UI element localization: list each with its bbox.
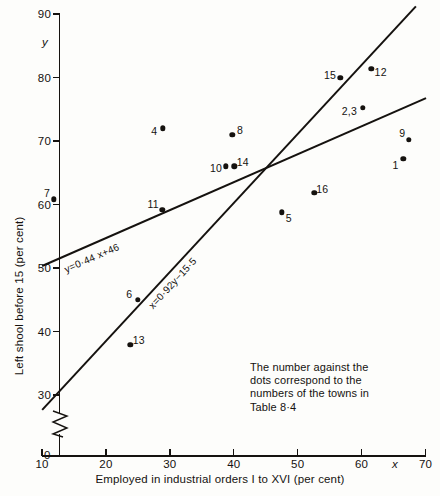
data-point-label: 11: [148, 198, 159, 210]
y-tick-mark: [53, 13, 60, 14]
data-point: [230, 132, 235, 137]
regression-x-on-y-line: [41, 5, 416, 410]
data-point-label: 6: [126, 288, 132, 300]
data-point: [51, 197, 56, 202]
data-point-label: 9: [399, 127, 405, 139]
y-tick-mark: [53, 204, 60, 205]
y-tick-label: 90: [38, 8, 51, 20]
regression-y-on-x-equation-label: y=0·44 x+46: [61, 240, 123, 275]
y-tick-label: 70: [38, 135, 51, 147]
y-tick-label: 40: [38, 326, 51, 338]
x-tick-mark: [361, 449, 362, 456]
data-point-label: 13: [133, 334, 145, 346]
y-tick-label: 80: [38, 72, 51, 84]
x-tick-label: 20: [99, 458, 112, 470]
y-tick-mark: [53, 331, 60, 332]
y-axis-zero-label: 0: [44, 449, 50, 461]
y-tick-mark: [53, 140, 60, 141]
data-point-label: 10: [210, 162, 222, 174]
chart-canvas: 30405060708090 10203040506070 0 y=0·44 x…: [0, 0, 440, 496]
y-axis-symbol: y: [42, 36, 48, 48]
data-point-label: 14: [237, 156, 249, 168]
x-tick-label: 60: [355, 458, 368, 470]
x-tick-label: 40: [227, 458, 240, 470]
data-point-label: 1: [393, 159, 399, 171]
data-point: [368, 66, 373, 71]
x-tick-mark: [41, 449, 42, 456]
x-tick-label: 30: [163, 458, 176, 470]
data-point-label: 15: [324, 69, 336, 81]
data-point: [279, 209, 284, 214]
data-point-label: 4: [151, 125, 157, 137]
data-point-label: 8: [237, 124, 243, 136]
x-axis-symbol: x: [392, 458, 398, 470]
data-point: [360, 105, 365, 110]
data-point: [160, 126, 165, 131]
chart-annotation-note: The number against the dots correspond t…: [250, 361, 369, 414]
data-point: [406, 137, 411, 142]
data-point: [338, 75, 343, 80]
data-point-label: 7: [44, 187, 50, 199]
x-tick-mark: [233, 449, 234, 456]
data-point-label: 16: [316, 183, 328, 195]
regression-x-on-y-equation-label: x=0·92y−15·5: [145, 254, 200, 312]
x-tick-mark: [105, 449, 106, 456]
data-point-label: 2,3: [342, 105, 357, 117]
y-axis-title: Left shool before 15 (per cent): [13, 201, 25, 391]
y-tick-mark: [53, 77, 60, 78]
x-axis-title: Employed in industrial orders I to XVI (…: [0, 473, 440, 485]
x-tick-label: 70: [419, 458, 432, 470]
y-tick-mark: [53, 267, 60, 268]
x-tick-mark: [169, 449, 170, 456]
data-point: [400, 156, 405, 161]
y-axis: [59, 14, 60, 413]
x-tick-label: 50: [291, 458, 304, 470]
data-point-label: 5: [286, 212, 292, 224]
y-axis-break-icon: [49, 410, 71, 438]
x-tick-mark: [297, 449, 298, 456]
data-point: [223, 164, 228, 169]
data-point-label: 12: [375, 66, 387, 78]
x-tick-mark: [425, 449, 426, 456]
regression-y-on-x-line: [42, 97, 426, 266]
y-tick-label: 60: [38, 199, 51, 211]
